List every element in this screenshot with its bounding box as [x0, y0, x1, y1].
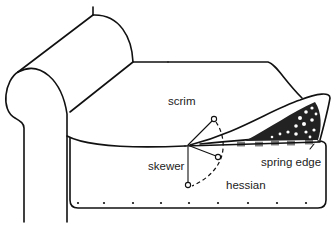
- skewer-group: [185, 116, 223, 187]
- spring-edge-label: spring edge: [261, 157, 321, 169]
- sofa-diagram: scrim skewer spring edge hessian: [0, 0, 336, 228]
- sofa-illustration: [0, 0, 336, 228]
- tack-row: [77, 202, 307, 204]
- scrim-label: scrim: [168, 96, 195, 108]
- skewer-label: skewer: [148, 161, 184, 173]
- stuffing-texture: [245, 102, 321, 141]
- hessian-label: hessian: [226, 180, 266, 192]
- sofa-back: [18, 7, 168, 112]
- sofa-arm: [6, 68, 67, 222]
